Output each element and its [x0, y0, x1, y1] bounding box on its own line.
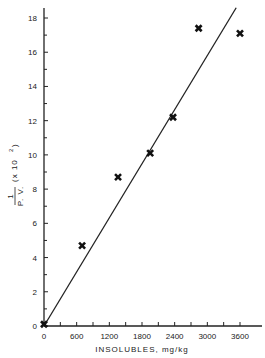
y-axis-title-exponent: 2	[8, 148, 14, 152]
x-tick-label: 1800	[133, 332, 151, 341]
data-point-marker	[196, 25, 202, 31]
y-tick-label: 8	[33, 185, 38, 194]
y-tick-label: 12	[28, 117, 37, 126]
x-axis-title: INSOLUBLES, mg/kg	[95, 345, 188, 354]
y-axis-title-numerator: 1	[6, 193, 15, 198]
y-tick-label: 16	[28, 48, 37, 57]
x-tick-label: 3000	[198, 332, 216, 341]
y-tick-label: 2	[33, 288, 38, 297]
y-tick-label: 18	[28, 14, 37, 23]
x-tick-label: 600	[70, 332, 84, 341]
data-point-marker	[79, 243, 85, 249]
y-axis-title-multiplier: (x 10	[10, 159, 19, 182]
y-tick-label: 10	[28, 151, 37, 160]
y-tick-label: 4	[33, 254, 38, 263]
y-axis-title-denominator: P. V.	[16, 186, 25, 207]
x-tick-label: 3600	[231, 332, 249, 341]
fit-line	[44, 8, 236, 326]
y-tick-label: 0	[33, 322, 38, 331]
x-tick-label: 0	[42, 332, 47, 341]
data-point-marker	[237, 30, 243, 36]
scatter-chart: 024681012141618060012001800240030003600 …	[0, 0, 265, 358]
data-point-marker	[115, 174, 121, 180]
x-tick-label: 2400	[166, 332, 184, 341]
data-point-marker	[170, 114, 176, 120]
y-axis-title-close: )	[10, 143, 19, 147]
y-tick-label: 6	[33, 219, 38, 228]
y-tick-label: 14	[28, 82, 37, 91]
regression-line	[44, 8, 236, 326]
y-axis-title: 1P. V.(x 102)	[6, 143, 25, 206]
axes: 024681012141618060012001800240030003600	[28, 8, 262, 341]
x-tick-label: 1200	[100, 332, 118, 341]
